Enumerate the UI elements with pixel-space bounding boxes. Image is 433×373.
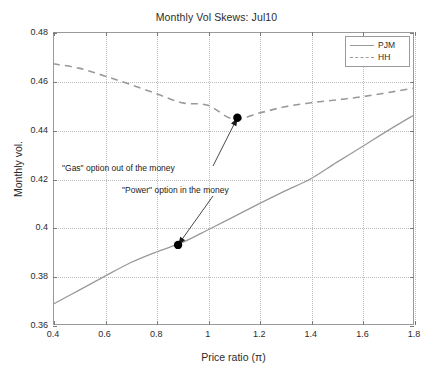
x-tick (54, 321, 55, 325)
x-tick (209, 321, 210, 325)
x-tick-top (106, 32, 107, 36)
y-tick (53, 326, 57, 327)
y-tick-right (410, 131, 414, 132)
legend-label-hh: HH (378, 52, 390, 62)
legend-line-solid-icon (349, 40, 375, 50)
y-tick-right (410, 326, 414, 327)
gridline-vertical (106, 33, 107, 324)
y-tick-right (410, 33, 414, 34)
chart-legend: PJM HH (345, 36, 410, 67)
y-tick-label: 0.46 (14, 76, 48, 86)
x-tick (106, 321, 107, 325)
y-tick-label: 0.42 (14, 174, 48, 184)
y-tick-right (410, 180, 414, 181)
y-tick (53, 131, 57, 132)
x-tick-top (209, 32, 210, 36)
y-tick-label: 0.48 (14, 27, 48, 37)
gridline-horizontal (54, 131, 413, 132)
y-tick (53, 82, 57, 83)
x-tick (312, 321, 313, 325)
x-tick-label: 0.8 (150, 329, 163, 339)
gridline-horizontal (54, 82, 413, 83)
y-tick-label: 0.4 (14, 222, 48, 232)
chart-figure: Monthly Vol Skews: Jul10 Price ratio (π)… (0, 0, 433, 373)
gridline-horizontal (54, 228, 413, 229)
gridline-vertical (209, 33, 210, 324)
legend-label-pjm: PJM (378, 40, 395, 50)
plot-inner (54, 33, 413, 324)
gridline-vertical (363, 33, 364, 324)
gridline-vertical (260, 33, 261, 324)
y-tick (53, 228, 57, 229)
x-tick-label: 0.6 (98, 329, 111, 339)
y-tick (53, 33, 57, 34)
x-tick-label: 1.4 (305, 329, 318, 339)
y-tick (53, 180, 57, 181)
x-tick-top (260, 32, 261, 36)
y-tick (53, 277, 57, 278)
y-tick-right (410, 228, 414, 229)
chart-title: Monthly Vol Skews: Jul10 (0, 11, 433, 23)
legend-item-pjm: PJM (349, 39, 406, 51)
x-tick-label: 0.4 (47, 329, 60, 339)
x-tick-top (312, 32, 313, 36)
y-tick-right (410, 82, 414, 83)
legend-item-hh: HH (349, 51, 406, 63)
x-tick-top (415, 32, 416, 36)
gridline-horizontal (54, 277, 413, 278)
y-tick-label: 0.38 (14, 271, 48, 281)
x-tick-label: 1 (205, 329, 210, 339)
power-annotation-text: "Power" option in the money (122, 185, 229, 195)
y-tick-label: 0.36 (14, 320, 48, 330)
x-tick (260, 321, 261, 325)
gridline-vertical (415, 33, 416, 324)
gas-annotation-text: "Gas" option out of the money (62, 163, 175, 173)
x-tick (157, 321, 158, 325)
y-tick-label: 0.44 (14, 125, 48, 135)
x-axis-label: Price ratio (π) (53, 351, 414, 363)
gridline-vertical (312, 33, 313, 324)
x-tick-label: 1.6 (356, 329, 369, 339)
plot-area (53, 32, 414, 325)
x-tick-label: 1.2 (253, 329, 266, 339)
gridline-horizontal (54, 180, 413, 181)
x-tick-top (157, 32, 158, 36)
y-axis-label: Monthly vol. (12, 124, 24, 214)
y-tick-right (410, 277, 414, 278)
legend-line-dashed-icon (349, 52, 375, 62)
x-tick (415, 321, 416, 325)
gridline-vertical (157, 33, 158, 324)
x-tick (363, 321, 364, 325)
x-tick-label: 1.8 (408, 329, 421, 339)
